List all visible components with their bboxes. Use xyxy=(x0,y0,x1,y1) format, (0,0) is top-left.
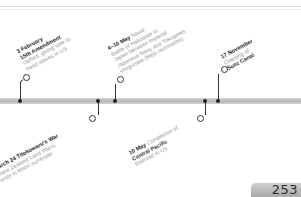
event-17-november: 17 November Opening of Suez Canal xyxy=(220,38,260,72)
event-10-may: 10 May Completion of Central Pacific Rai… xyxy=(128,125,186,168)
event-marker-ring xyxy=(23,74,30,81)
connector-stem xyxy=(20,82,21,100)
event-marker-dot xyxy=(18,99,22,103)
timeline-bar xyxy=(0,98,301,104)
connector-stem xyxy=(98,101,99,115)
event-marker-dot xyxy=(113,99,117,103)
connector-stem xyxy=(205,101,206,115)
event-4-10-may: 4–10 May Naval Battle of Hakodate in Jap… xyxy=(107,10,190,75)
connector-stem xyxy=(218,74,219,100)
connector-stem xyxy=(115,84,116,100)
event-marker-dot xyxy=(216,99,220,103)
page-number: 253 xyxy=(272,183,298,197)
event-march-24: March 24 Titokowaru's War (New Zealand L… xyxy=(0,133,66,184)
event-marker-ring xyxy=(197,115,204,122)
event-marker-ring xyxy=(117,76,124,83)
event-marker-ring xyxy=(89,115,96,122)
top-rule-secondary xyxy=(0,9,301,10)
event-marker-dot xyxy=(96,99,100,103)
top-rule xyxy=(0,6,301,7)
event-marker-dot xyxy=(203,99,207,103)
connector-elbow xyxy=(20,79,24,83)
event-3-february: 3 February 15th Amendment ratified, givi… xyxy=(16,24,75,72)
